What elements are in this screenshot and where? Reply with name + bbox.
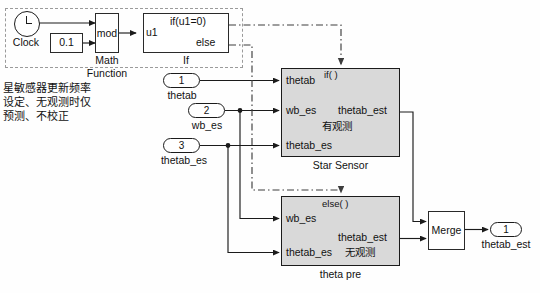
inport-3-number: 3: [179, 140, 185, 151]
theta-pre-header: else( ): [322, 199, 348, 209]
theta-pre-input-thetab-es: thetab_es: [286, 247, 332, 258]
if-block-input-label: u1: [146, 27, 158, 38]
inport-2-number: 2: [204, 105, 210, 116]
outport-1[interactable]: 1: [490, 222, 522, 237]
theta-pre-input-wb-es: wb_es: [286, 213, 316, 224]
inport-1-label: thetab: [152, 89, 212, 101]
chinese-annotation: 星敏感器更新频率 设定、无观测时仅 预测、不校正: [3, 82, 91, 124]
clock-caption: Clock: [0, 36, 52, 48]
star-sensor-input-wb-es: wb_es: [286, 105, 316, 116]
star-sensor-header: if( ): [324, 70, 338, 80]
star-sensor-caption: Star Sensor: [281, 159, 400, 171]
outport-1-label: thetab_est: [473, 238, 539, 250]
if-block-caption: If: [143, 54, 229, 66]
theta-pre-chinese-label: 无观测: [345, 247, 375, 258]
inport-3-label: thetab_es: [145, 154, 223, 166]
math-function-caption-2: Function: [83, 67, 131, 79]
inport-1-number: 1: [179, 75, 185, 86]
math-function-caption-1: Math: [83, 54, 131, 66]
constant-value: 0.1: [50, 36, 83, 48]
star-sensor-input-thetab-es: thetab_es: [286, 140, 332, 151]
inport-2[interactable]: 2: [188, 103, 225, 118]
math-function-op: mod: [94, 27, 120, 39]
block-diagram-canvas: Clock 0.1 mod Math Function u1 if(u1=0) …: [0, 0, 540, 293]
inport-3[interactable]: 3: [163, 138, 200, 153]
outport-1-number: 1: [503, 224, 509, 235]
theta-pre-caption: theta pre: [281, 268, 400, 280]
if-block-condition-else: else: [196, 37, 215, 48]
merge-label: Merge: [427, 224, 466, 236]
if-block-condition-true: if(u1=0): [170, 16, 206, 27]
star-sensor-output-thetab-est: thetab_est: [338, 105, 387, 116]
inport-2-label: wb_es: [177, 119, 237, 131]
inport-1[interactable]: 1: [163, 73, 200, 88]
star-sensor-input-thetab: thetab: [286, 75, 315, 86]
star-sensor-chinese-label: 有观测: [322, 121, 352, 132]
theta-pre-output-thetab-est: thetab_est: [338, 232, 387, 243]
clock-hand-horizontal: [26, 23, 32, 24]
